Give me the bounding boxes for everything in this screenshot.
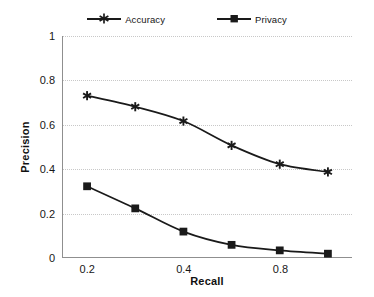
y-tick-label: 0.8: [40, 74, 55, 86]
square-icon: [229, 10, 240, 28]
x-tick-label: 0.8: [273, 263, 288, 275]
star-icon: [99, 10, 110, 28]
legend-entry-accuracy[interactable]: Accuracy: [87, 13, 165, 25]
series-line: [87, 96, 328, 172]
series-line: [87, 186, 328, 253]
y-tick-label: 0.4: [40, 163, 55, 175]
precision-recall-chart: Accuracy Privacy Precision 00.20.40.60.8…: [0, 0, 374, 297]
legend-label-accuracy: Accuracy: [125, 14, 165, 25]
series-privacy: [83, 182, 332, 257]
series-layer: [63, 36, 352, 257]
plot-area: 00.20.40.60.81 0.20.40.8: [62, 36, 352, 258]
chart-legend: Accuracy Privacy: [0, 8, 374, 30]
square-icon: [276, 246, 284, 254]
y-tick-label: 0.6: [40, 119, 55, 131]
legend-label-privacy: Privacy: [255, 14, 287, 25]
square-icon: [131, 204, 139, 212]
square-icon: [324, 250, 332, 258]
legend-key-accuracy: [87, 13, 121, 25]
y-tick-label: 0: [49, 252, 55, 264]
star-icon: [179, 117, 187, 126]
y-axis-label: Precision: [17, 36, 33, 258]
x-tick-label: 0.4: [176, 263, 191, 275]
star-icon: [228, 141, 236, 150]
y-tick-label: 0.2: [40, 208, 55, 220]
square-icon: [228, 241, 236, 249]
series-accuracy: [83, 91, 332, 176]
legend-key-privacy: [217, 13, 251, 25]
square-icon: [83, 182, 91, 190]
x-axis-label: Recall: [62, 275, 352, 287]
square-icon: [180, 228, 188, 236]
legend-entry-privacy[interactable]: Privacy: [217, 13, 287, 25]
y-tick-label: 1: [49, 30, 55, 42]
x-tick-label: 0.2: [80, 263, 95, 275]
